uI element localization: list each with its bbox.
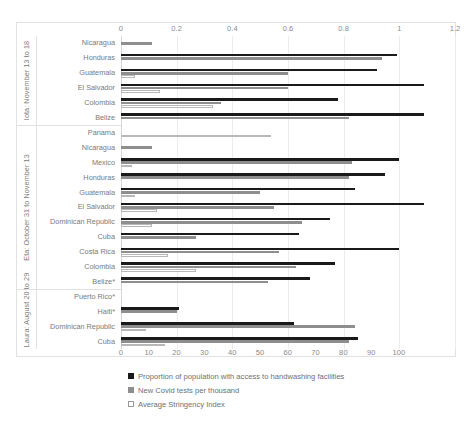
category-label: Colombia (37, 98, 119, 107)
category-label: Nicaragua (37, 143, 119, 152)
bar-stringency (121, 105, 213, 108)
category-label: Panama (37, 128, 119, 137)
top-axis-tick-0: 0 (106, 24, 136, 34)
bar-handwashing (121, 248, 399, 251)
bar-handwashing (121, 158, 399, 161)
category-label: Honduras (37, 53, 119, 62)
bar-tests (121, 340, 349, 343)
bar-handwashing (121, 98, 338, 101)
category-label: Honduras (37, 173, 119, 182)
category-label: Haiti* (37, 307, 119, 316)
legend-label: Average Stringency Index (138, 400, 225, 409)
bar-handwashing (121, 322, 294, 325)
legend-item-1[interactable]: New Covid tests per thousand (128, 383, 344, 397)
bar-handwashing (121, 337, 358, 340)
legend-item-2[interactable]: Average Stringency Index (128, 397, 344, 411)
bottom-axis-tick-10: 100 (384, 348, 414, 358)
legend-label: Proportion of population with access to … (138, 372, 344, 381)
bar-stringency (121, 269, 196, 272)
bar-tests (121, 325, 355, 328)
bar-tests (121, 206, 274, 209)
bottom-axis-tick-7: 70 (301, 348, 331, 358)
category-label: Puerto Rico* (37, 292, 119, 301)
category-label: Cuba (37, 337, 119, 346)
bottom-axis-tick-1: 10 (134, 348, 164, 358)
bar-stringency (121, 135, 271, 138)
bar-handwashing (121, 203, 424, 206)
bar-tests (121, 310, 177, 313)
legend-swatch-icon (128, 401, 134, 407)
bottom-axis-tick-4: 40 (217, 348, 247, 358)
top-axis-tick-5: 1 (384, 24, 414, 34)
category-label: El Salvador (37, 83, 119, 92)
bottom-axis-tick-5: 50 (245, 348, 275, 358)
top-axis-tick-3: 0.6 (273, 24, 303, 34)
bar-tests (121, 281, 268, 284)
bar-tests (121, 161, 352, 164)
bar-handwashing (121, 218, 330, 221)
category-label: El Salvador (37, 202, 119, 211)
bottom-axis-tick-6: 60 (273, 348, 303, 358)
group-label-0: Iota: November 13 to 18 (17, 36, 37, 125)
bar-tests (121, 42, 152, 45)
bar-tests (121, 102, 221, 105)
bar-tests (121, 87, 288, 90)
bar-stringency (121, 224, 152, 227)
category-label: Guatemala (37, 188, 119, 197)
bar-stringency (121, 90, 160, 93)
bar-stringency (121, 165, 132, 168)
bar-tests (121, 191, 260, 194)
bar-stringency (121, 344, 165, 347)
bottom-axis-tick-9: 90 (356, 348, 386, 358)
bar-tests (121, 221, 302, 224)
top-axis-tick-6: 1.2 (440, 24, 470, 34)
bar-handwashing (121, 173, 385, 176)
legend-item-0[interactable]: Proportion of population with access to … (128, 369, 344, 383)
bar-handwashing (121, 188, 355, 191)
bar-handwashing (121, 233, 299, 236)
legend-swatch-icon (128, 373, 134, 379)
group-label-2: Laura: August 20 to 29 (17, 289, 37, 349)
category-label: Guatemala (37, 68, 119, 77)
bar-tests (121, 146, 152, 149)
bar-stringency (121, 75, 135, 78)
chart-legend: Proportion of population with access to … (128, 369, 344, 411)
bar-handwashing (121, 84, 424, 87)
bar-tests (121, 72, 288, 75)
bottom-axis-tick-2: 20 (162, 348, 192, 358)
top-axis-tick-4: 0.8 (329, 24, 359, 34)
bottom-axis-tick-8: 80 (328, 348, 358, 358)
category-label: Dominican Republic (37, 217, 119, 226)
category-label: Dominican Republic (37, 322, 119, 331)
bar-handwashing (121, 262, 335, 265)
category-label: Costa Rica (37, 247, 119, 256)
bar-tests (121, 266, 296, 269)
gridline-6 (455, 36, 456, 349)
bar-handwashing (121, 307, 179, 310)
top-axis-tick-1: 0.2 (162, 24, 192, 34)
bar-tests (121, 236, 196, 239)
group-label-text: Laura: August 20 to 29 (22, 291, 31, 347)
group-label-1: Eta: October 31 to November 13 (17, 125, 37, 289)
bar-handwashing (121, 54, 397, 57)
category-label: Nicaragua (37, 38, 119, 47)
category-label: Colombia (37, 262, 119, 271)
bar-tests (121, 176, 349, 179)
group-label-text: Iota: November 13 to 18 (22, 41, 31, 120)
bar-stringency (121, 254, 168, 257)
bar-handwashing (121, 69, 377, 72)
bar-tests (121, 57, 382, 60)
bar-tests (121, 251, 279, 254)
bottom-axis-tick-3: 30 (189, 348, 219, 358)
category-label: Belize* (37, 277, 119, 286)
group-label-text: Eta: October 31 to November 13 (22, 154, 31, 260)
bar-handwashing (121, 113, 424, 116)
bar-tests (121, 117, 349, 120)
bottom-axis-tick-0: 0 (106, 348, 136, 358)
bar-handwashing (121, 277, 310, 280)
bar-stringency (121, 209, 157, 212)
chart-container: 00.20.40.60.811.2 0102030405060708090100… (0, 0, 471, 430)
category-label: Cuba (37, 232, 119, 241)
bar-stringency (121, 329, 146, 332)
legend-swatch-icon (128, 387, 134, 393)
